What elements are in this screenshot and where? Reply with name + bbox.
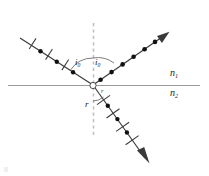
refractive-index-upper-label: n1 (170, 68, 178, 78)
origin-refraction-tick-label: r (101, 88, 103, 94)
angle-arc-incidence (71, 58, 94, 70)
reflected-ray-arrowhead (157, 32, 170, 43)
refracted-ray (93, 85, 150, 164)
refracted-ray-line (93, 85, 145, 158)
angle-of-reflection-label: i0 (95, 58, 100, 67)
angle-of-incidence-label: i0 (75, 58, 80, 67)
angle-of-refraction-label: r (85, 100, 89, 109)
refractive-index-lower-label: n2 (170, 88, 178, 98)
incident-ray (20, 38, 93, 85)
optics-figure: i0 i0 r r n1 n2 (0, 0, 209, 176)
point-of-incidence-marker (90, 82, 96, 88)
scan-artifact (4, 167, 8, 172)
